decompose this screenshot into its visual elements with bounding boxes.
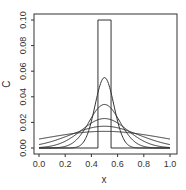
x-tick-label: 0.8	[138, 159, 151, 169]
y-tick-label: 0.06	[18, 62, 28, 80]
x-axis-label: x	[102, 174, 107, 185]
series-line-t3	[39, 119, 170, 148]
plot-frame	[34, 14, 177, 154]
series-line-t1	[39, 78, 170, 148]
series-line-t5	[39, 131, 170, 139]
y-axis-label: C	[1, 80, 12, 87]
y-tick-label: 0.08	[18, 37, 28, 55]
series-line-t0	[39, 20, 170, 148]
y-axis: 0.000.020.040.060.080.10	[18, 11, 34, 157]
x-tick-label: 0.6	[111, 159, 124, 169]
x-axis: 0.00.20.40.60.81.0	[33, 154, 177, 169]
y-tick-label: 0.02	[18, 114, 28, 132]
y-tick-label: 0.04	[18, 88, 28, 106]
x-tick-label: 0.0	[33, 159, 46, 169]
x-tick-label: 0.4	[85, 159, 98, 169]
series-lines	[39, 20, 170, 148]
x-tick-label: 1.0	[164, 159, 177, 169]
x-tick-label: 0.2	[59, 159, 72, 169]
y-tick-label: 0.00	[18, 139, 28, 157]
concentration-chart: 0.00.20.40.60.81.0 0.000.020.040.060.080…	[0, 0, 186, 190]
y-tick-label: 0.10	[18, 11, 28, 29]
